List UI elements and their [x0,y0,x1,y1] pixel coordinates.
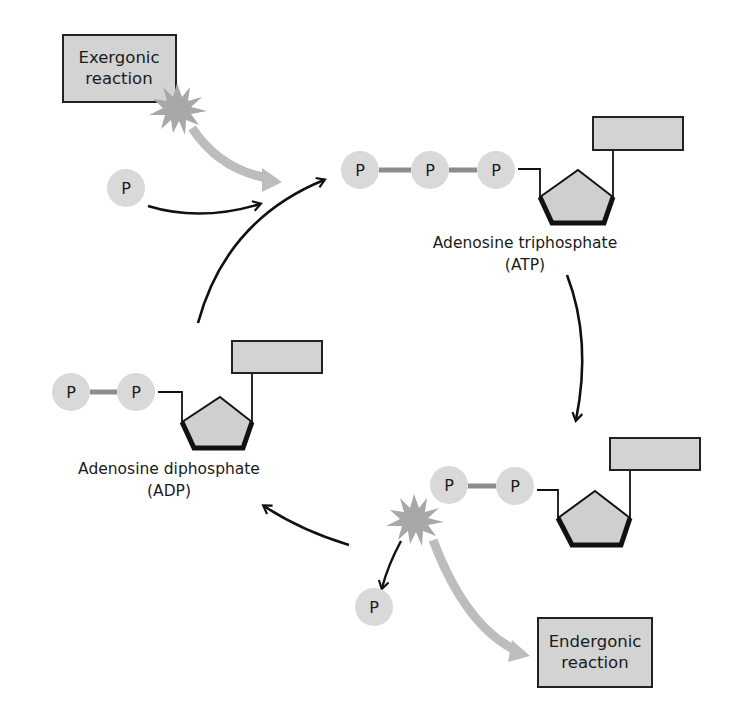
adp-molecule-bottom: P P [430,438,700,545]
adenine-base-box [593,117,683,150]
atp-molecule: P P P Adenosine triphosphate (ATP) [341,117,683,274]
to-adp-arrow-icon [264,506,349,545]
atp-phosphate-1: P [341,151,379,189]
endergonic-label-line1: Endergonic [549,632,642,651]
energy-input-arrow-icon [192,128,282,192]
energy-release-starburst-icon [386,494,444,546]
exergonic-label-line1: Exergonic [78,48,159,67]
atp-abbr-label: (ATP) [505,256,545,274]
adp-abbr-label: (ADP) [147,482,191,500]
energy-output-arrow-icon [433,540,530,662]
phosphate-release-arrow-icon [382,541,401,588]
adp-molecule-left: P P Adenosine diphosphate (ADP) [52,341,322,500]
atp-phosphate-3: P [477,151,515,189]
svg-text:P: P [131,383,141,402]
adp-name-label: Adenosine diphosphate [78,460,260,478]
endergonic-label-line2: reaction [561,653,628,672]
svg-text:P: P [510,477,520,496]
adp-bottom-phosphate-2: P [496,467,534,505]
atp-hydrolysis-arrow-icon [567,275,582,420]
ribose-pentagon-icon [182,397,252,448]
atp-cycle-diagram: Exergonic reaction P P P P [0,0,740,717]
exergonic-label-line2: reaction [85,69,152,88]
adp-phosphate-2: P [117,373,155,411]
atp-name-label: Adenosine triphosphate [433,234,617,252]
ribose-pentagon-icon [558,491,630,545]
svg-text:P: P [121,179,131,198]
svg-text:P: P [444,476,454,495]
atp-phosphate-2: P [411,151,449,189]
ribose-pentagon-icon [540,170,613,223]
svg-text:P: P [66,383,76,402]
phosphate-in-arrow-icon [148,204,260,214]
exergonic-reaction-box: Exergonic reaction [63,35,176,102]
free-phosphate-out: P [355,588,393,626]
adp-to-atp-arrow-icon [198,180,324,323]
free-phosphate-in: P [107,169,145,207]
adenine-base-box [232,341,322,373]
endergonic-reaction-box: Endergonic reaction [538,618,652,687]
svg-text:P: P [355,161,365,180]
svg-text:P: P [369,598,379,617]
svg-text:P: P [425,161,435,180]
adenine-base-box [610,438,700,470]
svg-text:P: P [491,161,501,180]
adp-bottom-phosphate-1: P [430,466,468,504]
adp-phosphate-1: P [52,373,90,411]
